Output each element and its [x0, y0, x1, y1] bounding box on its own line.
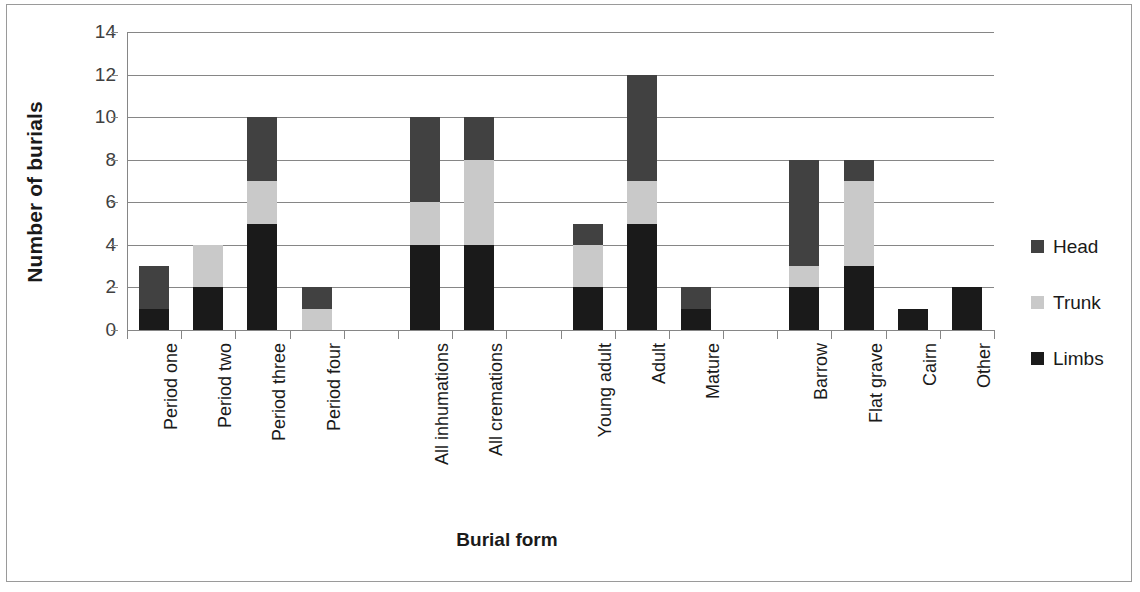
- bar-segment[interactable]: [410, 245, 440, 330]
- y-tick-label: 12: [56, 65, 116, 84]
- bar-segment[interactable]: [302, 287, 332, 308]
- bar-slot: [290, 32, 344, 330]
- bar-segment[interactable]: [789, 287, 819, 330]
- y-tick-mark: [111, 245, 118, 246]
- bar-segment[interactable]: [193, 245, 223, 288]
- bar-slot: [127, 32, 181, 330]
- legend-item[interactable]: Limbs: [1031, 345, 1140, 371]
- legend-swatch-icon: [1031, 352, 1044, 365]
- bar-slot: [831, 32, 885, 330]
- y-axis-title: Number of burials: [23, 92, 47, 292]
- bar-segment[interactable]: [573, 224, 603, 245]
- x-tick-mark: [181, 330, 182, 339]
- bar-segment[interactable]: [627, 181, 657, 224]
- bar-segment[interactable]: [247, 117, 277, 181]
- bar-segment[interactable]: [627, 75, 657, 181]
- x-tick-mark: [669, 330, 670, 339]
- bar-segment[interactable]: [410, 117, 440, 202]
- bar-segment[interactable]: [627, 224, 657, 330]
- y-tick-label: 2: [56, 277, 116, 296]
- legend-item[interactable]: Trunk: [1031, 289, 1140, 315]
- bar-slot: [398, 32, 452, 330]
- y-tick-mark: [111, 160, 118, 161]
- bar-segment[interactable]: [789, 266, 819, 287]
- y-tick-label: 8: [56, 150, 116, 169]
- bar-segment[interactable]: [844, 160, 874, 181]
- chart-frame: Number of burials 02468101214 Period one…: [6, 4, 1132, 582]
- stacked-bar[interactable]: [573, 224, 603, 330]
- stacked-bar[interactable]: [898, 309, 928, 330]
- x-tick-mark: [344, 330, 345, 339]
- plot-area: [127, 32, 994, 330]
- x-tick-label: Period one: [161, 343, 182, 430]
- y-tick-mark: [111, 202, 118, 203]
- bar-segment[interactable]: [247, 224, 277, 330]
- bar-segment[interactable]: [464, 160, 494, 245]
- bar-slot: [235, 32, 289, 330]
- stacked-bar[interactable]: [410, 117, 440, 330]
- legend-item[interactable]: Head: [1031, 233, 1140, 259]
- x-tick-label: Period four: [324, 343, 345, 431]
- bar-segment[interactable]: [898, 309, 928, 330]
- stacked-bar[interactable]: [789, 160, 819, 330]
- bar-segment[interactable]: [952, 287, 982, 330]
- stacked-bar[interactable]: [464, 117, 494, 330]
- x-tick-mark: [561, 330, 562, 339]
- stacked-bar[interactable]: [844, 160, 874, 330]
- bar-segment[interactable]: [139, 266, 169, 309]
- bar-slot: [452, 32, 506, 330]
- bar-slot: [181, 32, 235, 330]
- bar-segment[interactable]: [139, 309, 169, 330]
- bar-segment[interactable]: [844, 266, 874, 330]
- stacked-bar[interactable]: [139, 266, 169, 330]
- y-tick-mark: [111, 117, 118, 118]
- x-tick-mark: [615, 330, 616, 339]
- y-tick-label: 6: [56, 192, 116, 211]
- bar-segment[interactable]: [464, 245, 494, 330]
- stacked-bar[interactable]: [681, 287, 711, 330]
- y-axis-tick-labels: 02468101214: [53, 32, 117, 330]
- x-tick-mark: [777, 330, 778, 339]
- x-tick-label: All inhumations: [432, 343, 453, 465]
- stacked-bar[interactable]: [952, 287, 982, 330]
- y-tick-label: 14: [56, 22, 116, 41]
- legend-label: Limbs: [1053, 349, 1104, 368]
- x-axis-title: Burial form: [7, 529, 1007, 551]
- bar-segment[interactable]: [464, 117, 494, 160]
- bar-slot: [615, 32, 669, 330]
- bar-segment[interactable]: [573, 245, 603, 288]
- bar-slot: [777, 32, 831, 330]
- bar-segment[interactable]: [681, 309, 711, 330]
- x-tick-mark: [127, 330, 128, 339]
- stacked-bar[interactable]: [302, 287, 332, 330]
- y-tick-mark: [111, 330, 118, 331]
- bar-segment[interactable]: [247, 181, 277, 224]
- x-tick-label: Young adult: [595, 343, 616, 437]
- bar-slot: [506, 32, 560, 330]
- bar-segment[interactable]: [410, 202, 440, 245]
- bar-segment[interactable]: [573, 287, 603, 330]
- y-tick-mark: [111, 287, 118, 288]
- x-tick-label: Period three: [269, 343, 290, 441]
- y-tick-label: 10: [56, 107, 116, 126]
- y-tick-label: 0: [56, 320, 116, 339]
- x-tick-mark: [290, 330, 291, 339]
- x-axis-tick-labels: Period onePeriod twoPeriod threePeriod f…: [127, 343, 994, 518]
- legend: HeadTrunkLimbs: [1031, 233, 1140, 401]
- x-axis-tick-marks: [127, 330, 994, 340]
- stacked-bar[interactable]: [247, 117, 277, 330]
- stacked-bar[interactable]: [627, 75, 657, 330]
- x-tick-label: Barrow: [811, 343, 832, 400]
- bar-segment[interactable]: [193, 287, 223, 330]
- legend-swatch-icon: [1031, 296, 1044, 309]
- bar-segment[interactable]: [681, 287, 711, 308]
- bar-segment[interactable]: [302, 309, 332, 330]
- stacked-bar[interactable]: [193, 245, 223, 330]
- bar-segment[interactable]: [789, 160, 819, 266]
- y-tick-label: 4: [56, 235, 116, 254]
- plot-inner: [127, 32, 994, 330]
- bar-segment[interactable]: [844, 181, 874, 266]
- x-tick-mark: [994, 330, 995, 339]
- legend-swatch-icon: [1031, 240, 1044, 253]
- legend-label: Head: [1053, 237, 1098, 256]
